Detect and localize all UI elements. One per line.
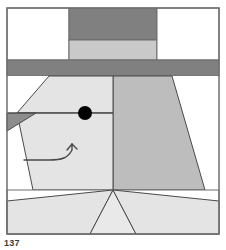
hat-band-patch [69,40,157,60]
hat-corner-right-patch [157,8,219,60]
hat-corner-left-patch [7,8,69,60]
eye-dot [78,106,92,120]
face-lower-patch [17,113,113,190]
figure-caption: 137 [4,238,124,248]
hat-brim-patch [7,60,219,76]
figure-container: 137 [0,0,226,250]
hat-crown-patch [69,8,157,40]
quilt-block-diagram [0,0,226,250]
